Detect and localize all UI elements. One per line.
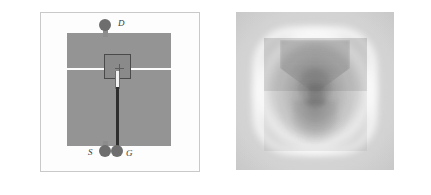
gate-contact-pad [111, 145, 123, 157]
panel-field-map [236, 12, 394, 170]
panel-device-schematic: D S G [40, 12, 200, 172]
field-lobe-lower [292, 100, 338, 148]
gate-lead [116, 87, 119, 147]
label-drain: D [118, 19, 125, 28]
label-source: S [88, 148, 93, 157]
label-gate: G [126, 149, 133, 158]
figure-container: D S G [0, 0, 431, 195]
drain-contact-pad [99, 19, 111, 31]
source-contact-pad [99, 145, 111, 157]
